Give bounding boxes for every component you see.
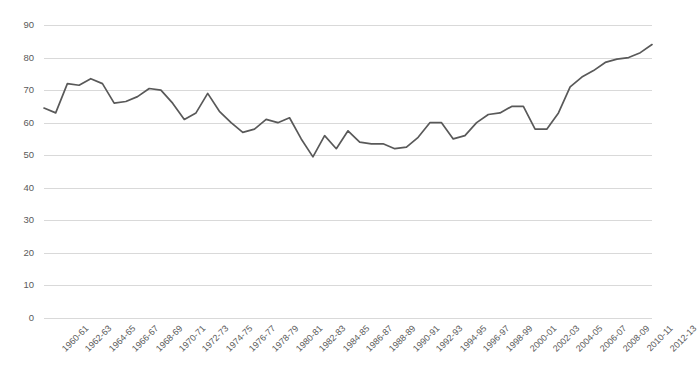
y-axis-tick-label: 70 (6, 85, 34, 95)
y-axis-tick-label: 40 (6, 183, 34, 193)
y-axis-tick-label: 10 (6, 280, 34, 290)
series-line (44, 25, 652, 318)
y-axis-tick-label: 20 (6, 248, 34, 258)
y-axis-tick-label: 60 (6, 118, 34, 128)
y-axis-tick-label: 0 (6, 313, 34, 323)
y-axis-tick-label: 30 (6, 215, 34, 225)
gridline (44, 318, 652, 319)
y-axis-tick-label: 80 (6, 53, 34, 63)
series-polyline (44, 45, 652, 157)
plot-area (44, 25, 652, 318)
y-axis-tick-label: 50 (6, 150, 34, 160)
y-axis-tick-label: 90 (6, 20, 34, 30)
